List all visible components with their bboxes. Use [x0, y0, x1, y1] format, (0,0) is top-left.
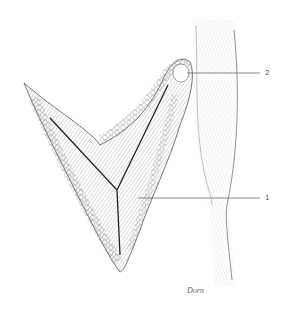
limb-contour	[193, 20, 238, 285]
anatomical-illustration	[0, 0, 289, 310]
flap-tip-oval	[173, 64, 189, 82]
tissue-flap	[24, 59, 192, 272]
label-2: 2	[265, 68, 269, 77]
artist-signature: Dorn	[187, 286, 204, 295]
label-1: 1	[265, 193, 269, 202]
